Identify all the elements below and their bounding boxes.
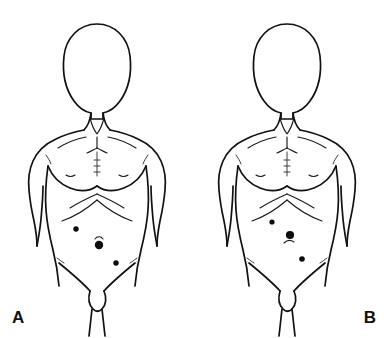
manubrium-fork-left bbox=[87, 148, 97, 153]
inguinal-ligament-left bbox=[59, 263, 90, 291]
torso-right-outline bbox=[300, 130, 355, 246]
torso-left-outline bbox=[219, 130, 274, 246]
neck-left-outline bbox=[84, 113, 91, 130]
manubrium-fork-right bbox=[287, 148, 297, 153]
pectoral-right bbox=[97, 166, 146, 190]
pectoral-left bbox=[48, 166, 97, 190]
panel-label-b: B bbox=[364, 309, 376, 326]
thigh-left-inner bbox=[279, 309, 282, 336]
nipple-right bbox=[309, 175, 318, 177]
nipple-left bbox=[66, 175, 75, 177]
groin-crease-left bbox=[274, 284, 279, 290]
inguinal-ligament-left bbox=[249, 263, 280, 291]
umbilicus-crease bbox=[284, 241, 294, 243]
genital-outline bbox=[89, 291, 106, 311]
inguinal-ligament-right bbox=[104, 263, 135, 291]
clavicle-left bbox=[248, 137, 276, 148]
port-dot-left-upper-quadrant-port bbox=[269, 219, 274, 224]
figure-root: A bbox=[0, 0, 389, 338]
panel-b: B bbox=[195, 0, 389, 338]
pectoral-left bbox=[238, 166, 287, 190]
port-dot-right-lower-quadrant-port bbox=[299, 256, 305, 262]
arm-right-inner bbox=[151, 186, 157, 246]
arm-left-inner bbox=[37, 186, 43, 246]
clavicle-right bbox=[108, 137, 136, 148]
armpit-crease-left bbox=[236, 155, 241, 164]
armpit-crease-left bbox=[46, 155, 51, 164]
arm-right-inner bbox=[341, 186, 347, 246]
manubrium-fork-left bbox=[277, 148, 287, 153]
manubrium-fork-right bbox=[97, 148, 107, 153]
torso-right-flank bbox=[325, 166, 338, 286]
suprasternal-notch bbox=[280, 118, 294, 134]
torso-diagram-a bbox=[0, 0, 194, 338]
port-dot-right-lower-quadrant-port bbox=[113, 260, 118, 265]
torso-left-flank bbox=[236, 166, 249, 286]
nipple-right bbox=[119, 175, 128, 177]
hip-crease-right bbox=[320, 258, 327, 263]
panel-label-a: A bbox=[12, 309, 24, 326]
clavicle-left bbox=[58, 137, 86, 148]
umbilicus-crease bbox=[95, 237, 103, 239]
costal-margin-left bbox=[70, 194, 97, 208]
thigh-right-inner bbox=[292, 309, 295, 336]
clavicle-right bbox=[298, 137, 326, 148]
suprasternal-notch bbox=[90, 118, 104, 134]
torso-diagram-b bbox=[195, 0, 389, 338]
inguinal-ligament-right bbox=[294, 263, 325, 291]
hip-crease-right bbox=[130, 258, 137, 263]
groin-crease-left bbox=[84, 284, 89, 290]
port-dot-umbilical-port bbox=[95, 241, 103, 249]
torso-right-outline bbox=[110, 130, 165, 246]
neck-right-outline bbox=[293, 113, 300, 130]
genital-outline bbox=[279, 291, 296, 311]
port-dot-umbilical-port bbox=[286, 231, 294, 239]
thigh-right-inner bbox=[102, 309, 105, 336]
neck-left-outline bbox=[274, 113, 281, 130]
neck-right-outline bbox=[103, 113, 110, 130]
torso-right-flank bbox=[135, 166, 148, 286]
hip-crease-left bbox=[57, 258, 64, 263]
costal-margin-right bbox=[287, 194, 314, 208]
head-outline bbox=[63, 24, 130, 119]
port-dot-left-upper-quadrant-port bbox=[73, 226, 78, 231]
hip-crease-left bbox=[247, 258, 254, 263]
armpit-crease-right bbox=[333, 155, 338, 164]
thigh-left-inner bbox=[89, 309, 92, 336]
panel-a: A bbox=[0, 0, 194, 338]
pectoral-right bbox=[287, 166, 336, 190]
torso-left-flank bbox=[46, 166, 59, 286]
costal-margin-left bbox=[260, 194, 287, 208]
arm-left-inner bbox=[227, 186, 233, 246]
head-outline bbox=[253, 24, 320, 119]
costal-margin-right bbox=[97, 194, 124, 208]
nipple-left bbox=[256, 175, 265, 177]
armpit-crease-right bbox=[143, 155, 148, 164]
